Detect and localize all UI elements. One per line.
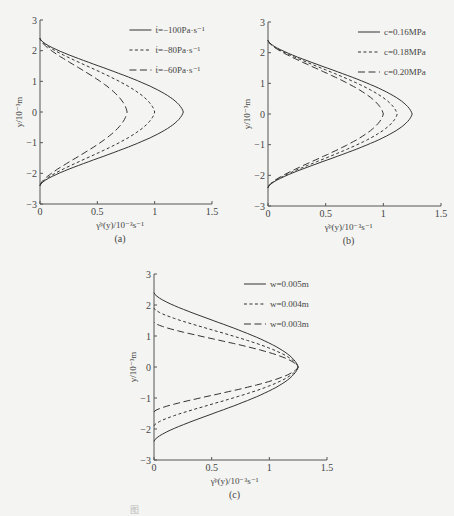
y-tick-label: 0 xyxy=(32,107,37,118)
series-line xyxy=(154,322,298,412)
x-tick-label: 0 xyxy=(38,206,43,217)
x-tick-label: 1 xyxy=(267,462,272,473)
x-axis-label: γ̇ᵖ(y)/10⁻³s⁻¹ xyxy=(210,476,259,486)
panel-subtitle: (c) xyxy=(229,489,240,501)
y-axis-label: y/10⁻³m xyxy=(14,97,24,128)
y-tick-label: −1 xyxy=(254,139,265,150)
x-tick-label: 1.5 xyxy=(435,208,448,219)
x-tick-label: 0 xyxy=(266,208,271,219)
series-line xyxy=(154,293,298,442)
y-tick-label: 1 xyxy=(32,76,37,87)
x-tick-label: 1 xyxy=(381,208,386,219)
y-tick-label: 2 xyxy=(260,47,265,58)
chart-panel-c: −3−2−1012300.511.5γ̇ᵖ(y)/10⁻³s⁻¹y/10⁻³m(… xyxy=(128,269,333,502)
x-tick-label: 0.5 xyxy=(319,208,332,219)
legend-label: c=0.18MPa xyxy=(384,47,426,57)
x-tick-label: 0 xyxy=(152,462,157,473)
legend-label: c=0.20MPa xyxy=(384,67,426,77)
figure-caption: 图 xyxy=(130,505,139,515)
y-tick-label: 3 xyxy=(260,17,265,28)
y-tick-label: 0 xyxy=(146,362,151,373)
legend-label: w=0.004m xyxy=(270,299,309,309)
y-tick-label: −3 xyxy=(254,201,265,212)
series-line xyxy=(40,38,155,185)
legend-label: w=0.005m xyxy=(270,279,309,289)
series-line xyxy=(268,40,397,187)
legend-label: ṫ=−60Pa·s⁻¹ xyxy=(155,65,200,75)
x-tick-label: 1 xyxy=(152,206,157,217)
legend-label: ṫ=−100Pa·s⁻¹ xyxy=(155,25,205,35)
y-tick-label: −1 xyxy=(140,393,151,404)
series-line xyxy=(40,38,183,185)
x-tick-label: 1.5 xyxy=(321,462,334,473)
y-axis-label: y/10⁻³m xyxy=(128,352,138,383)
y-axis-label: y/10⁻³m xyxy=(242,99,252,130)
x-tick-label: 1.5 xyxy=(206,206,219,217)
x-tick-label: 0.5 xyxy=(91,206,104,217)
x-axis-label: γ̇ᵖ(y)/10⁻³s⁻¹ xyxy=(324,222,373,232)
y-tick-label: −2 xyxy=(254,170,265,181)
chart-panel-b: −3−2−1012300.511.5γ̇ᵖ(y)/10⁻³s⁻¹y/10⁻³m(… xyxy=(242,17,447,248)
figure: −3−2−1012300.511.5γ̇ᵖ(y)/10⁻³s⁻¹y/10⁻³m(… xyxy=(0,0,454,516)
y-tick-label: −3 xyxy=(26,199,37,210)
y-tick-label: −3 xyxy=(140,455,151,466)
legend-label: w=0.003m xyxy=(270,319,309,329)
panel-subtitle: (b) xyxy=(343,235,355,247)
y-tick-label: −2 xyxy=(140,424,151,435)
y-tick-label: −1 xyxy=(26,137,37,148)
chart-panel-a: −3−2−1012300.511.5γ̇ᵖ(y)/10⁻³s⁻¹y/10⁻³m(… xyxy=(14,15,218,246)
y-tick-label: 3 xyxy=(32,15,37,26)
y-tick-label: 1 xyxy=(146,331,151,342)
series-line xyxy=(268,40,412,187)
series-line xyxy=(268,40,383,187)
y-tick-label: 0 xyxy=(260,109,265,120)
y-tick-label: 2 xyxy=(32,45,37,56)
panel-subtitle: (a) xyxy=(114,233,125,245)
legend-label: c=0.16MPa xyxy=(384,27,426,37)
legend-label: ṫ=−80Pa·s⁻¹ xyxy=(155,45,200,55)
x-axis-label: γ̇ᵖ(y)/10⁻³s⁻¹ xyxy=(95,220,144,230)
y-tick-label: 2 xyxy=(146,300,151,311)
y-tick-label: 1 xyxy=(260,78,265,89)
x-tick-label: 0.5 xyxy=(205,462,218,473)
y-tick-label: 3 xyxy=(146,269,151,280)
y-tick-label: −2 xyxy=(26,168,37,179)
